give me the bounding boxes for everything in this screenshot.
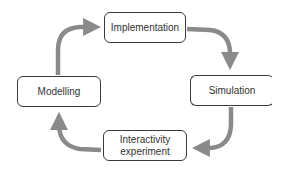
node-implementation-label: Implementation [111, 22, 179, 34]
arrow-modelling-to-implementation [58, 27, 93, 75]
arrow-implementation-to-simulation [187, 29, 230, 62]
node-interactivity-label-line1: Interactivity [120, 134, 171, 146]
node-modelling-label: Modelling [38, 86, 81, 98]
node-simulation-label: Simulation [209, 85, 256, 97]
node-modelling: Modelling [17, 76, 101, 107]
node-interactivity-label-line2: experiment [120, 146, 169, 158]
arrow-interactivity-to-modelling [59, 120, 101, 150]
node-simulation: Simulation [190, 75, 274, 106]
node-interactivity-experiment: Interactivity experiment [103, 130, 187, 161]
arrow-simulation-to-interactivity [200, 107, 231, 148]
cycle-diagram: Implementation Simulation Interactivity … [0, 0, 284, 171]
node-implementation: Implementation [104, 12, 186, 43]
